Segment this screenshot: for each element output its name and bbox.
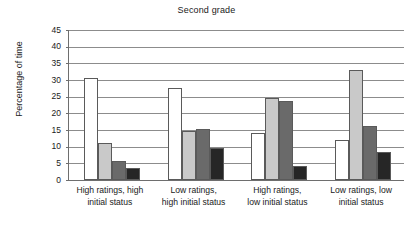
y-axis-tick-label: 45 [39, 26, 61, 35]
bar [98, 143, 112, 180]
y-axis-tick-label: 40 [39, 42, 61, 51]
y-axis-tick-mark [66, 180, 70, 181]
bar [84, 78, 98, 180]
x-axis-category-label: Low ratings, lowinitial status [311, 185, 411, 208]
bar [265, 98, 279, 180]
bar [293, 166, 307, 180]
y-axis-tick-label: 25 [39, 92, 61, 101]
y-axis-tick-label: 15 [39, 126, 61, 135]
chart-title: Second grade [0, 5, 413, 15]
bar [349, 70, 363, 180]
bar [112, 161, 126, 180]
y-axis-tick-label: 20 [39, 109, 61, 118]
y-axis-tick-label: 0 [39, 176, 61, 185]
bar-group [69, 30, 153, 180]
x-axis-category-label-line: initial status [311, 197, 411, 209]
bar-group [153, 30, 237, 180]
y-axis-tick-label: 5 [39, 159, 61, 168]
bar [377, 152, 391, 180]
bar [196, 129, 210, 180]
x-axis-category-label-line: Low ratings, low [311, 185, 411, 197]
y-axis-tick-label: 35 [39, 59, 61, 68]
plot-area: 454035302520151050 [68, 30, 404, 181]
chart-container: Second grade Percentage of time 45403530… [0, 0, 413, 227]
y-axis-tick-label: 30 [39, 76, 61, 85]
bar [363, 126, 377, 180]
bar [279, 101, 293, 180]
bar [251, 133, 265, 180]
bar-group [237, 30, 321, 180]
y-axis-tick-label: 10 [39, 142, 61, 151]
bar [126, 168, 140, 180]
bar [210, 148, 224, 180]
bar [182, 131, 196, 180]
bar [168, 88, 182, 180]
bar [335, 140, 349, 180]
y-axis-title: Percentage of time [14, 19, 24, 139]
x-axis-category-labels: High ratings, highinitial statusLow rati… [68, 185, 403, 219]
bar-group [320, 30, 404, 180]
